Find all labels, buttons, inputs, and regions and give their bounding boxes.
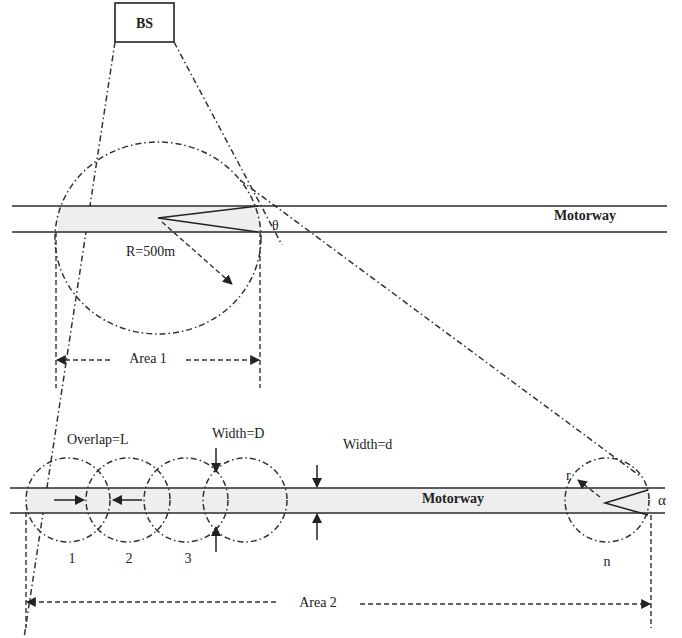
area1-section: Motorway θ R=500m Area 1 bbox=[12, 142, 667, 388]
cell-label-1: 1 bbox=[69, 551, 76, 566]
area2-road-label: Motorway bbox=[422, 491, 484, 506]
area1-radius-label: R=500m bbox=[126, 244, 175, 259]
area2-span-label: Area 2 bbox=[299, 595, 337, 610]
area1-angle-label: θ bbox=[272, 218, 279, 233]
beam-line-left bbox=[24, 42, 115, 638]
cell-label-n: n bbox=[604, 554, 611, 569]
cell-label-2: 2 bbox=[126, 551, 133, 566]
beam-line-right bbox=[240, 180, 640, 476]
area2-radius-label: r bbox=[566, 468, 571, 483]
road-width-label: Width=d bbox=[343, 437, 392, 452]
cell-label-3: 3 bbox=[185, 551, 192, 566]
area1-span-label: Area 1 bbox=[129, 351, 167, 366]
cell-width-label: Width=D bbox=[212, 426, 264, 441]
area1-coverage-circle bbox=[55, 142, 261, 334]
area2-angle-label: α bbox=[658, 492, 666, 508]
base-station: BS bbox=[115, 3, 174, 42]
base-station-label: BS bbox=[136, 16, 153, 31]
motorway-coverage-diagram: BS Motorway θ R=500m Area 1 Motorway bbox=[0, 0, 682, 638]
coverage-beam-lines bbox=[24, 42, 640, 638]
area1-road-label: Motorway bbox=[554, 208, 616, 223]
area2-section: Motorway Overlap=L Width=D Width=d α r 1… bbox=[10, 426, 666, 628]
overlap-label: Overlap=L bbox=[67, 432, 129, 447]
